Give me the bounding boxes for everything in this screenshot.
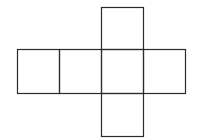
cube-net-diagram xyxy=(0,0,197,140)
cube-face-center-left xyxy=(60,50,102,94)
cube-face-top xyxy=(102,8,144,50)
cube-face-right xyxy=(144,50,186,94)
cube-face-center xyxy=(102,50,144,94)
cube-face-bottom xyxy=(102,94,144,137)
cube-face-left xyxy=(18,50,60,94)
